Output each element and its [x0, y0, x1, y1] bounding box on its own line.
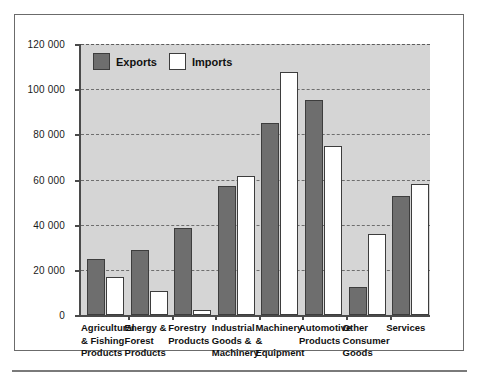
- y-tick-label-100000: 100 000: [3, 84, 65, 95]
- y-tick-120000: [75, 44, 81, 46]
- x-label-2: Energy & Forest Products: [125, 322, 169, 360]
- x-label-5: Machinery & Equipment: [255, 322, 299, 360]
- y-tick-60000: [75, 180, 81, 182]
- legend-item-exports: Exports: [93, 53, 157, 70]
- bar-exports-7: [349, 287, 367, 315]
- x-label-7: Other Consumer Goods: [343, 322, 387, 360]
- bar-group-7: [347, 44, 391, 315]
- x-label-6: Automotive Products: [299, 322, 343, 347]
- y-tick-0: [75, 315, 81, 317]
- x-label-3: Forestry Products: [168, 322, 212, 347]
- legend-swatch-imports: [169, 53, 186, 70]
- chart-legend: Exports Imports: [93, 53, 232, 70]
- y-tick-100000: [75, 89, 81, 91]
- bar-group-2: [129, 44, 173, 315]
- legend-label-exports: Exports: [116, 56, 157, 68]
- x-tick-7: [390, 315, 392, 320]
- x-tick-3: [215, 315, 217, 320]
- bar-imports-3: [193, 310, 211, 315]
- bar-imports-6: [324, 146, 342, 315]
- y-tick-40000: [75, 225, 81, 227]
- bar-exports-3: [174, 228, 192, 315]
- bar-imports-5: [280, 72, 298, 315]
- y-tick-20000: [75, 270, 81, 272]
- bar-exports-8: [392, 196, 410, 315]
- bar-exports-6: [305, 100, 323, 315]
- y-tick-80000: [75, 134, 81, 136]
- y-tick-label-60000: 60 000: [3, 174, 65, 185]
- legend-label-imports: Imports: [192, 56, 232, 68]
- x-tick-5: [302, 315, 304, 320]
- bar-imports-8: [411, 184, 429, 315]
- legend-swatch-exports: [93, 53, 110, 70]
- x-tick-1: [128, 315, 130, 320]
- bar-exports-1: [87, 259, 105, 315]
- y-tick-label-20000: 20 000: [3, 264, 65, 275]
- bar-exports-5: [261, 123, 279, 315]
- y-tick-label-0: 0: [3, 310, 65, 321]
- y-tick-label-120000: 120 000: [3, 39, 65, 50]
- bar-exports-4: [218, 186, 236, 315]
- chart-figure: 020 00040 00060 00080 000100 000120 000 …: [0, 0, 479, 381]
- bar-group-4: [216, 44, 260, 315]
- bar-exports-2: [131, 250, 149, 315]
- x-axis-category-labels: Agricultural & Fishing ProductsEnergy & …: [81, 322, 479, 381]
- figure-frame: 020 00040 00060 00080 000100 000120 000 …: [14, 14, 464, 351]
- plot-area: Exports Imports: [79, 44, 430, 317]
- legend-item-imports: Imports: [169, 53, 232, 70]
- x-tick-4: [259, 315, 261, 320]
- y-tick-label-40000: 40 000: [3, 219, 65, 230]
- footer-rule: [12, 370, 467, 372]
- bar-imports-7: [368, 234, 386, 315]
- bar-group-8: [390, 44, 434, 315]
- bar-group-1: [85, 44, 129, 315]
- y-tick-label-80000: 80 000: [3, 129, 65, 140]
- x-label-8: Services: [386, 322, 430, 335]
- bar-imports-4: [237, 176, 255, 315]
- bar-imports-1: [106, 277, 124, 315]
- x-tick-6: [346, 315, 348, 320]
- x-label-4: Industrial Goods & Machinery: [212, 322, 256, 360]
- bar-imports-2: [150, 291, 168, 315]
- x-tick-2: [172, 315, 174, 320]
- bar-group-5: [259, 44, 303, 315]
- bar-group-6: [303, 44, 347, 315]
- bar-group-3: [172, 44, 216, 315]
- x-label-1: Agricultural & Fishing Products: [81, 322, 125, 360]
